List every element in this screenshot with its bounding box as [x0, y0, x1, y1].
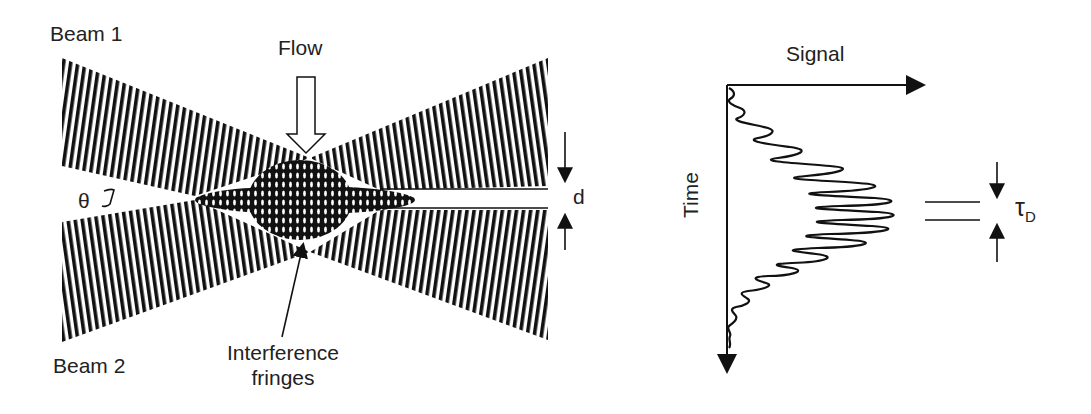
interference-fringes-label: Interference fringes: [218, 342, 348, 388]
interference-label-line1: Interference: [218, 342, 348, 363]
signal-plot: [727, 85, 997, 370]
tau-subscript: D: [1025, 208, 1036, 225]
tau-d-label: τD: [1015, 195, 1036, 224]
time-axis-label: Time: [680, 172, 701, 218]
theta-label: θ: [78, 190, 90, 211]
beam-1-label: Beam 1: [50, 23, 122, 44]
interference-label-line2: fringes: [218, 367, 348, 388]
fringe-spacing-label: d: [573, 186, 585, 207]
flow-label: Flow: [278, 37, 322, 58]
beam-2-label: Beam 2: [53, 355, 125, 376]
tau-symbol: τ: [1015, 193, 1025, 221]
ldv-diagram: Beam 1 Flow θ d Beam 2 Interference frin…: [0, 0, 1091, 414]
signal-axis-label: Signal: [786, 43, 844, 64]
flow-arrow-icon: [287, 77, 325, 153]
theta-angle-icon: [102, 189, 114, 206]
doppler-burst-signal: [728, 88, 894, 348]
diagram-canvas: [0, 0, 1091, 414]
